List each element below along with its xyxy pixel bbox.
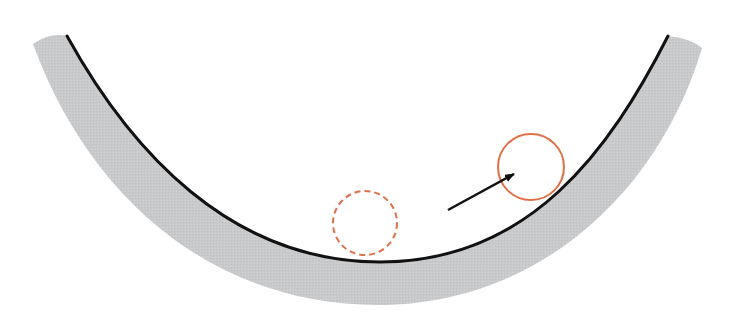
displacement-arrow-icon [448, 174, 514, 210]
diagram-canvas [0, 0, 730, 323]
equilibrium-ball-dashed-circle [333, 191, 397, 255]
bowl-diagram [0, 0, 730, 323]
displaced-ball-circle [498, 134, 564, 200]
bowl-body [33, 35, 702, 305]
